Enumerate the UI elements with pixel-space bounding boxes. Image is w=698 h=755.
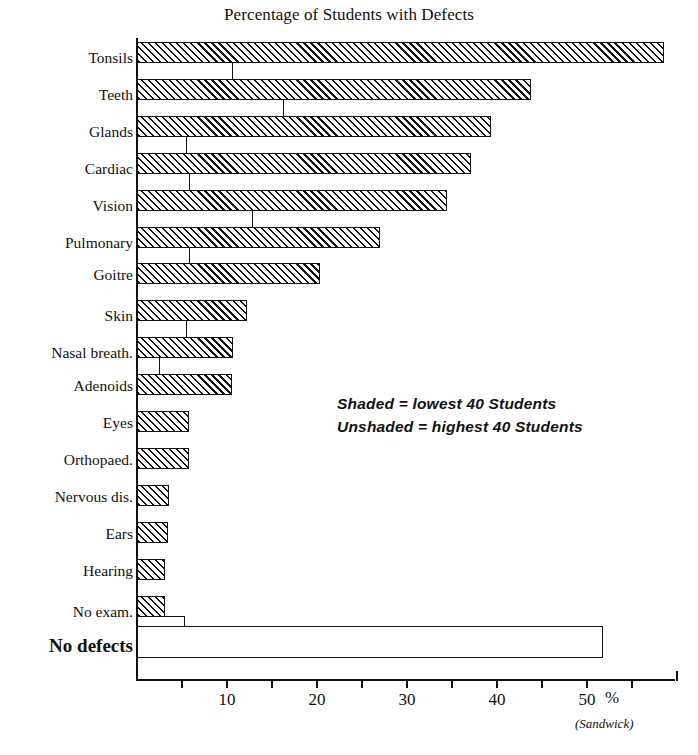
bar-shaded xyxy=(137,522,168,543)
legend: Shaded = lowest 40 Students Unshaded = h… xyxy=(337,392,583,438)
category-label-teeth: Teeth xyxy=(0,86,133,104)
plot-area: 1020304050% TonsilsTeethGlandsCardiacVis… xyxy=(0,0,698,755)
bar-shaded xyxy=(137,116,491,137)
category-label-nasal-breath: Nasal breath. xyxy=(0,344,133,362)
x-axis-tick-minor xyxy=(271,681,273,688)
category-label-pulmonary: Pulmonary xyxy=(0,234,133,252)
x-axis-tick-major xyxy=(316,681,318,688)
x-axis-tick-minor xyxy=(181,681,183,688)
x-axis-tick-label: 40 xyxy=(489,690,506,710)
source-credit: (Sandwick) xyxy=(575,716,633,732)
bar-shaded xyxy=(137,79,531,100)
category-label-hearing: Hearing xyxy=(0,562,133,580)
bar-shaded xyxy=(137,411,189,432)
category-label-goitre: Goitre xyxy=(0,266,133,284)
x-axis-tick-label: 50 xyxy=(579,690,596,710)
x-axis-tick-minor xyxy=(541,681,543,688)
x-axis-tick-label: 20 xyxy=(309,690,326,710)
bar-shaded xyxy=(137,448,189,469)
category-label-no-exam: No exam. xyxy=(0,603,133,621)
bar-unshaded xyxy=(137,626,603,658)
bar-shaded xyxy=(137,485,169,506)
bar-shaded xyxy=(137,300,247,321)
axis-endcap-right xyxy=(676,671,678,681)
bar-shaded xyxy=(137,263,320,284)
bar-shaded xyxy=(137,42,664,63)
bar-shaded xyxy=(137,337,233,358)
percent-sign: % xyxy=(605,688,619,708)
legend-line-shaded: Shaded = lowest 40 Students xyxy=(337,392,583,415)
x-axis-tick-major xyxy=(586,681,588,688)
bar-shaded xyxy=(137,559,165,580)
category-label-no-defects: No defects xyxy=(0,635,133,657)
bar-shaded xyxy=(137,190,447,211)
x-axis-tick-minor xyxy=(631,681,633,688)
x-axis-tick-minor xyxy=(361,681,363,688)
category-label-cardiac: Cardiac xyxy=(0,160,133,178)
category-label-skin: Skin xyxy=(0,307,133,325)
x-axis-tick-minor xyxy=(451,681,453,688)
category-label-ears: Ears xyxy=(0,525,133,543)
category-label-tonsils: Tonsils xyxy=(0,49,133,67)
x-axis-tick-label: 10 xyxy=(219,690,236,710)
bar-shaded xyxy=(137,153,471,174)
x-axis-tick-label: 30 xyxy=(399,690,416,710)
x-axis-tick-major xyxy=(406,681,408,688)
bar-shaded xyxy=(137,596,165,617)
category-label-nervous-dis: Nervous dis. xyxy=(0,488,133,506)
axis-endcap-left xyxy=(136,671,138,681)
category-label-vision: Vision xyxy=(0,197,133,215)
category-label-adenoids: Adenoids xyxy=(0,377,133,395)
chart-figure: Percentage of Students with Defects 1020… xyxy=(0,0,698,755)
category-label-eyes: Eyes xyxy=(0,414,133,432)
x-axis-tick-major xyxy=(496,681,498,688)
category-label-glands: Glands xyxy=(0,123,133,141)
legend-line-unshaded: Unshaded = highest 40 Students xyxy=(337,415,583,438)
category-label-orthopaed: Orthopaed. xyxy=(0,451,133,469)
x-axis-tick-major xyxy=(226,681,228,688)
bar-shaded xyxy=(137,227,380,248)
bar-shaded xyxy=(137,374,232,395)
